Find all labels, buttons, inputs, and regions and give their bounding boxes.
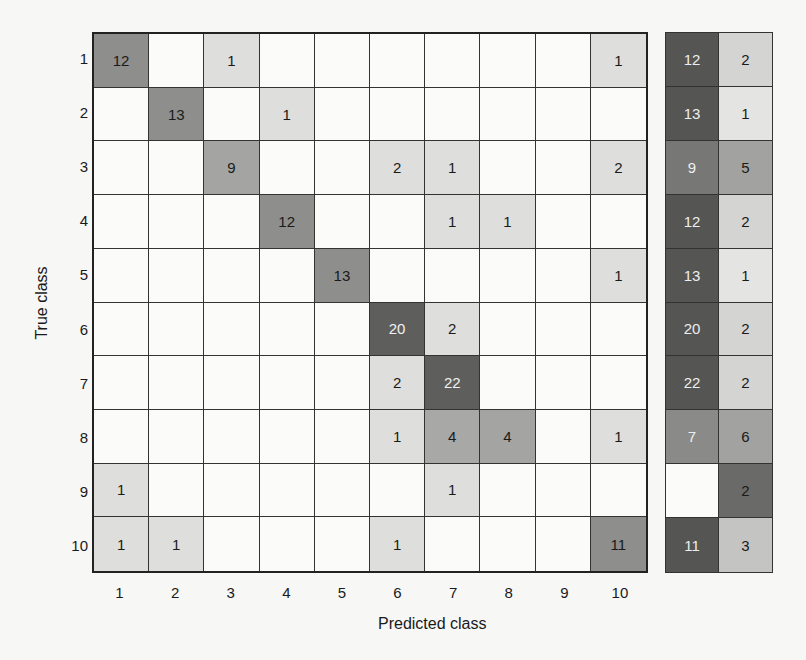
matrix-cell	[94, 249, 149, 303]
matrix-cell	[315, 141, 370, 195]
matrix-cell	[149, 34, 204, 88]
matrix-cell	[591, 303, 646, 357]
matrix-cell	[480, 517, 535, 571]
matrix-cell	[149, 410, 204, 464]
matrix-cell	[536, 410, 591, 464]
summary-correct-cell: 13	[666, 87, 719, 141]
matrix-cell	[204, 356, 259, 410]
x-tick-label: 8	[481, 584, 536, 601]
summary-incorrect-cell: 5	[719, 141, 772, 195]
matrix-cell	[480, 34, 535, 88]
matrix-cell: 1	[94, 517, 149, 571]
matrix-cell	[591, 464, 646, 518]
matrix-cell: 20	[370, 303, 425, 357]
x-tick-label: 3	[203, 584, 258, 601]
matrix-cell: 1	[425, 464, 480, 518]
matrix-cell	[536, 88, 591, 142]
matrix-cell: 2	[591, 141, 646, 195]
matrix-cell	[204, 464, 259, 518]
matrix-cell	[425, 249, 480, 303]
x-tick-label: 2	[148, 584, 203, 601]
matrix-cell	[204, 249, 259, 303]
matrix-cell: 1	[94, 464, 149, 518]
x-tick-label: 10	[592, 584, 647, 601]
matrix-cell: 22	[425, 356, 480, 410]
summary-incorrect-cell: 3	[719, 518, 772, 572]
matrix-cell	[315, 410, 370, 464]
matrix-cell: 1	[425, 141, 480, 195]
matrix-cell	[315, 517, 370, 571]
y-tick-label: 7	[70, 375, 88, 392]
matrix-cell	[260, 249, 315, 303]
matrix-cell: 11	[591, 517, 646, 571]
matrix-cell	[260, 517, 315, 571]
matrix-cell	[536, 464, 591, 518]
summary-incorrect-cell: 2	[719, 303, 772, 357]
summary-correct-cell: 12	[666, 33, 719, 87]
matrix-cell: 2	[370, 141, 425, 195]
matrix-cell: 13	[315, 249, 370, 303]
matrix-cell	[94, 303, 149, 357]
matrix-cell	[260, 34, 315, 88]
matrix-cell	[260, 356, 315, 410]
matrix-cell: 1	[370, 517, 425, 571]
x-tick-label: 6	[370, 584, 425, 601]
x-tick-label: 5	[314, 584, 369, 601]
summary-incorrect-cell: 2	[719, 33, 772, 87]
matrix-cell	[536, 249, 591, 303]
matrix-cell	[591, 88, 646, 142]
matrix-cell: 1	[480, 195, 535, 249]
matrix-cell	[425, 517, 480, 571]
matrix-cell	[204, 517, 259, 571]
y-axis-label: True class	[33, 266, 51, 339]
matrix-cell	[480, 88, 535, 142]
summary-correct-cell: 9	[666, 141, 719, 195]
summary-incorrect-cell: 1	[719, 87, 772, 141]
matrix-cell	[536, 356, 591, 410]
matrix-cell: 1	[260, 88, 315, 142]
matrix-cell	[149, 249, 204, 303]
summary-correct-cell: 11	[666, 518, 719, 572]
matrix-cell: 12	[94, 34, 149, 88]
x-tick-label: 1	[92, 584, 147, 601]
matrix-cell	[260, 303, 315, 357]
matrix-cell	[370, 249, 425, 303]
summary-correct-cell: 7	[666, 410, 719, 464]
summary-correct-cell: 22	[666, 356, 719, 410]
matrix-cell: 1	[149, 517, 204, 571]
matrix-cell	[480, 141, 535, 195]
matrix-cell	[315, 195, 370, 249]
matrix-cell	[480, 249, 535, 303]
matrix-cell	[204, 195, 259, 249]
matrix-cell: 12	[260, 195, 315, 249]
matrix-cell: 1	[591, 410, 646, 464]
matrix-cell	[536, 303, 591, 357]
matrix-cell	[204, 410, 259, 464]
x-tick-label: 9	[537, 584, 592, 601]
matrix-cell	[315, 88, 370, 142]
y-tick-label: 6	[70, 321, 88, 338]
summary-correct-cell	[666, 464, 719, 518]
x-tick-label: 7	[426, 584, 481, 601]
matrix-cell	[536, 517, 591, 571]
matrix-cell	[149, 141, 204, 195]
matrix-cell	[260, 464, 315, 518]
summary-incorrect-cell: 6	[719, 410, 772, 464]
matrix-cell: 1	[591, 34, 646, 88]
matrix-cell: 1	[591, 249, 646, 303]
y-tick-label: 8	[70, 429, 88, 446]
matrix-cell	[260, 410, 315, 464]
matrix-cell	[370, 88, 425, 142]
y-tick-label: 9	[70, 483, 88, 500]
matrix-cell: 2	[370, 356, 425, 410]
matrix-cell	[370, 464, 425, 518]
matrix-cell	[536, 141, 591, 195]
matrix-cell	[260, 141, 315, 195]
confusion-matrix: 12111319212121113120222214411111111	[92, 32, 648, 573]
y-tick-label: 2	[70, 104, 88, 121]
summary-columns: 12213195122131202222762113	[665, 32, 773, 573]
matrix-cell	[315, 356, 370, 410]
matrix-cell	[480, 464, 535, 518]
summary-correct-cell: 20	[666, 303, 719, 357]
y-tick-label: 4	[70, 212, 88, 229]
